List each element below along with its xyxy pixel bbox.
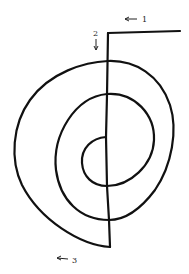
arrow-down-icon — [94, 39, 98, 50]
label-2-text: 2 — [93, 29, 98, 38]
entry-line — [108, 31, 180, 33]
vertical-line — [106, 33, 110, 247]
label-1-text: 1 — [142, 15, 147, 24]
middle-loop — [56, 94, 154, 220]
label-2: 2 — [93, 29, 98, 50]
label-3-text: 3 — [72, 256, 77, 265]
arrow-left-icon — [125, 17, 137, 21]
label-3: 3 — [57, 256, 77, 265]
arrow-left-icon — [57, 256, 68, 260]
label-1: 1 — [125, 15, 147, 24]
spiral-diagram: 1 2 3 — [0, 0, 189, 274]
inner-loop — [82, 137, 107, 186]
